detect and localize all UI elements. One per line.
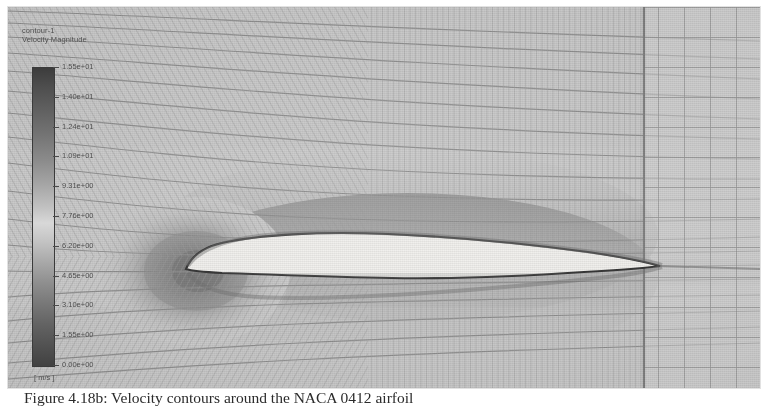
colorbar-tick-label: 1.55e+01 — [62, 63, 94, 71]
colorbar-tick — [53, 186, 59, 187]
colorbar-tick — [53, 305, 59, 306]
colorbar-tick-label: 4.65e+00 — [62, 272, 94, 280]
cfd-contour-figure: contour-1 Velocity Magnitude 1.55e+01 1.… — [8, 7, 760, 388]
colorbar-units-label: [ m/s ] — [34, 373, 54, 382]
figure-page: contour-1 Velocity Magnitude 1.55e+01 1.… — [0, 0, 767, 409]
figure-caption-text: Figure 4.18b: Velocity contours around t… — [24, 389, 744, 407]
colorbar-tick — [53, 365, 59, 366]
colorbar-tick — [53, 156, 59, 157]
colorbar-tick — [53, 127, 59, 128]
colorbar-tick — [53, 276, 59, 277]
colorbar-tick-label: 1.40e+01 — [62, 93, 94, 101]
colorbar-tick-label: 6.20e+00 — [62, 242, 94, 250]
contour-object-label: contour-1 — [22, 26, 55, 35]
colorbar-tick-label: 0.00e+00 — [62, 361, 94, 369]
figure-caption: Figure 4.18b: Velocity contours around t… — [0, 389, 767, 409]
colorbar-tick — [53, 335, 59, 336]
colorbar-tick — [53, 246, 59, 247]
contour-quantity-label: Velocity Magnitude — [22, 35, 87, 44]
mesh-outlet-block — [644, 7, 760, 388]
colorbar-tick-label: 3.10e+00 — [62, 301, 94, 309]
colorbar-tick-label: 9.31e+00 — [62, 182, 94, 190]
colorbar-tick-label: 1.09e+01 — [62, 152, 94, 160]
colorbar-tick-label: 1.24e+01 — [62, 123, 94, 131]
colorbar-tick — [53, 67, 59, 68]
colorbar-tick — [53, 216, 59, 217]
colorbar-legend: 1.55e+01 1.40e+01 1.24e+01 1.09e+01 9.31… — [32, 67, 152, 377]
colorbar-gradient — [32, 67, 55, 367]
colorbar-tick — [53, 97, 59, 98]
colorbar-tick-label: 7.76e+00 — [62, 212, 94, 220]
colorbar-tick-label: 1.55e+00 — [62, 331, 94, 339]
